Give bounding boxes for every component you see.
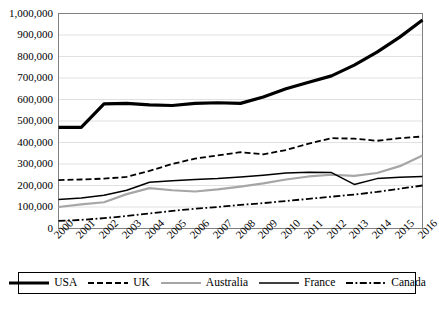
series-layer: [59, 20, 423, 221]
y-axis-tick-label: 400,000: [0, 137, 53, 148]
y-axis-tick-label: 1,000,000: [0, 8, 53, 19]
legend-item-france[interactable]: France: [258, 277, 335, 289]
y-axis-tick-label: 100,000: [0, 201, 53, 212]
legend-swatch-uk: [87, 278, 129, 288]
legend-swatch-usa: [8, 278, 50, 288]
legend-label: Canada: [391, 277, 425, 289]
y-axis-tick-label: 600,000: [0, 94, 53, 105]
legend-label: UK: [133, 277, 150, 289]
y-axis-tick-label: 0: [0, 223, 53, 234]
series-line-usa: [59, 20, 423, 128]
y-axis-tick-label: 200,000: [0, 180, 53, 191]
legend-item-usa[interactable]: USA: [8, 277, 77, 289]
legend-label: Australia: [206, 277, 248, 289]
y-axis-tick-label: 700,000: [0, 72, 53, 83]
legend-item-uk[interactable]: UK: [87, 277, 150, 289]
legend-item-canada[interactable]: Canada: [345, 277, 425, 289]
y-axis-tick-label: 300,000: [0, 158, 53, 169]
legend-swatch-australia: [160, 278, 202, 288]
y-axis-tick-label: 900,000: [0, 29, 53, 40]
series-line-canada: [59, 186, 423, 221]
legend-label: France: [304, 277, 335, 289]
line-chart: 0100,000200,000300,000400,000500,000600,…: [0, 0, 439, 309]
legend-label: USA: [54, 277, 77, 289]
y-axis-tick-label: 800,000: [0, 51, 53, 62]
plot-area: [0, 0, 439, 309]
legend-item-australia[interactable]: Australia: [160, 277, 248, 289]
chart-legend: USAUKAustraliaFranceCanada: [18, 272, 416, 294]
y-axis-tick-label: 500,000: [0, 115, 53, 126]
legend-swatch-france: [258, 278, 300, 288]
legend-swatch-canada: [345, 278, 387, 288]
